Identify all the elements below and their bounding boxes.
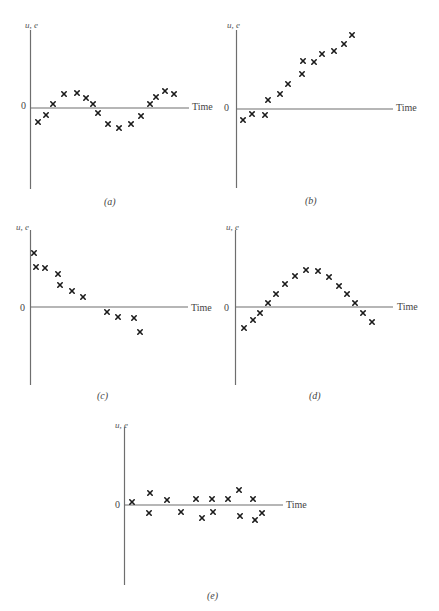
data-point-a xyxy=(84,96,88,100)
data-point-b xyxy=(250,112,254,116)
data-point-a xyxy=(62,92,66,96)
data-point-e xyxy=(253,518,257,522)
data-point-a xyxy=(117,126,121,130)
data-point-e xyxy=(210,497,214,501)
data-point-d xyxy=(353,301,357,305)
data-point-e xyxy=(238,514,242,518)
data-point-c xyxy=(132,316,136,320)
data-point-e xyxy=(165,498,169,502)
data-point-e xyxy=(251,497,255,501)
data-point-e xyxy=(194,497,198,501)
data-point-b xyxy=(301,59,305,63)
data-point-d xyxy=(266,301,270,305)
data-point-b xyxy=(266,98,270,102)
data-point-e xyxy=(260,511,264,515)
data-point-e xyxy=(237,488,241,492)
data-point-d xyxy=(327,275,331,279)
data-point-a xyxy=(172,92,176,96)
data-point-a xyxy=(36,120,40,124)
data-point-b xyxy=(300,72,304,76)
plot-canvas xyxy=(0,0,439,611)
data-point-c xyxy=(43,266,47,270)
data-point-e xyxy=(130,500,134,504)
data-point-d xyxy=(242,326,246,330)
data-point-c xyxy=(70,289,74,293)
data-point-d xyxy=(283,282,287,286)
data-point-a xyxy=(96,111,100,115)
data-point-a xyxy=(51,102,55,106)
data-point-b xyxy=(320,52,324,56)
data-point-e xyxy=(200,516,204,520)
data-point-e xyxy=(147,511,151,515)
data-point-d xyxy=(337,284,341,288)
data-point-d xyxy=(274,292,278,296)
data-point-d xyxy=(258,311,262,315)
data-point-d xyxy=(361,311,365,315)
data-point-c xyxy=(81,295,85,299)
data-point-c xyxy=(58,283,62,287)
data-point-a xyxy=(154,95,158,99)
data-point-e xyxy=(211,510,215,514)
data-point-d xyxy=(316,269,320,273)
data-point-d xyxy=(293,274,297,278)
data-point-a xyxy=(44,113,48,117)
data-point-b xyxy=(263,113,267,117)
data-point-c xyxy=(105,310,109,314)
data-point-b xyxy=(241,118,245,122)
data-point-d xyxy=(345,292,349,296)
data-point-d xyxy=(304,268,308,272)
data-point-e xyxy=(148,491,152,495)
data-point-e xyxy=(179,510,183,514)
data-point-b xyxy=(332,49,336,53)
data-point-b xyxy=(312,60,316,64)
data-point-a xyxy=(163,89,167,93)
data-point-a xyxy=(75,91,79,95)
data-point-c xyxy=(138,330,142,334)
data-point-b xyxy=(286,82,290,86)
data-point-a xyxy=(139,114,143,118)
data-point-c xyxy=(32,251,36,255)
data-point-a xyxy=(106,122,110,126)
data-point-c xyxy=(116,315,120,319)
data-point-a xyxy=(148,102,152,106)
data-point-b xyxy=(350,33,354,37)
data-point-b xyxy=(342,42,346,46)
data-point-d xyxy=(251,318,255,322)
data-point-e xyxy=(226,497,230,501)
data-point-c xyxy=(34,265,38,269)
data-point-d xyxy=(370,320,374,324)
data-point-a xyxy=(91,102,95,106)
data-point-b xyxy=(278,92,282,96)
data-point-c xyxy=(56,272,60,276)
data-point-a xyxy=(129,122,133,126)
